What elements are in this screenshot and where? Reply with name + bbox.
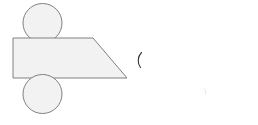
top-circle-shape[interactable]	[23, 4, 62, 43]
diagram-svg	[0, 0, 258, 125]
bottom-circle-shape[interactable]	[23, 75, 62, 114]
trapezoid-shape[interactable]	[13, 38, 127, 78]
paren-mark-glyph	[138, 53, 141, 68]
diagram-canvas	[0, 0, 258, 125]
faint-stray-mark	[204, 88, 206, 94]
